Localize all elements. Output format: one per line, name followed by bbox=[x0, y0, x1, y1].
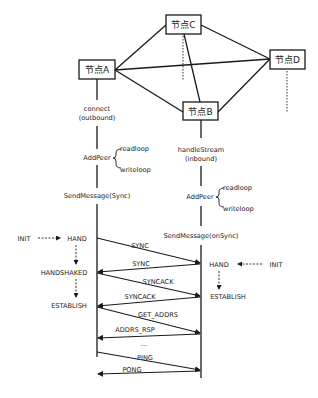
connect-label: connect bbox=[84, 105, 111, 113]
msg-label-addrs-rsp: ADDRS_RSP bbox=[115, 326, 154, 334]
node-c-label: 节点C bbox=[171, 20, 195, 30]
msg-arrow-pong bbox=[98, 371, 200, 374]
right-readloop-label: readloop bbox=[223, 184, 252, 192]
right-state-establish: ESTABLISH bbox=[210, 293, 246, 301]
inbound-label: (inbound) bbox=[185, 155, 217, 163]
left-state-handshaked: HANDSHAKED bbox=[41, 269, 88, 277]
msg-label-sync-out: SYNC bbox=[131, 242, 149, 250]
msg-label-get-addrs: GET_ADDRS bbox=[138, 311, 178, 319]
node-d: 节点D bbox=[270, 50, 305, 69]
left-writeloop-label: writeloop bbox=[120, 166, 151, 174]
left-sendmessage-label: SendMessage(Sync) bbox=[64, 192, 131, 200]
msg-label-ellipsis: ... bbox=[141, 340, 147, 348]
right-init-label: INIT bbox=[270, 261, 284, 269]
msg-label-pong: PONG bbox=[122, 366, 141, 374]
mesh-edges bbox=[115, 25, 270, 112]
node-d-label: 节点D bbox=[275, 55, 300, 65]
right-sendmessage-label: SendMessage(onSync) bbox=[164, 232, 239, 240]
edge-d-b bbox=[218, 59, 270, 112]
left-init-label: INIT bbox=[18, 235, 32, 243]
outbound-label: (outbound) bbox=[79, 114, 116, 122]
edge-c-d bbox=[201, 25, 270, 59]
left-addpeer-label: AddPeer bbox=[83, 154, 111, 162]
right-writeloop-label: writeloop bbox=[223, 205, 254, 213]
node-a: 节点A bbox=[79, 60, 115, 79]
left-state-establish: ESTABLISH bbox=[51, 302, 87, 310]
msg-label-ping: PING bbox=[137, 354, 153, 362]
msg-label-syncack-back: SYNCACK bbox=[124, 293, 156, 301]
node-a-label: 节点A bbox=[85, 65, 110, 75]
node-c: 节点C bbox=[166, 15, 201, 34]
edge-a-b bbox=[115, 70, 183, 112]
handlestream-label: handleStream bbox=[178, 146, 224, 154]
msg-label-syncack-out: SYNCACK bbox=[142, 278, 174, 286]
node-b-label: 节点B bbox=[188, 107, 212, 117]
msg-arrow-addrs-rsp bbox=[98, 334, 200, 338]
left-state-hand: HAND bbox=[67, 235, 86, 243]
edge-a-c bbox=[115, 25, 166, 70]
right-addpeer-label: AddPeer bbox=[186, 193, 214, 201]
node-b: 节点B bbox=[183, 102, 218, 120]
edge-c-b bbox=[184, 34, 200, 102]
left-readloop-label: readloop bbox=[120, 145, 149, 153]
right-state-hand: HAND bbox=[209, 261, 228, 269]
msg-label-sync-back: SYNC bbox=[132, 260, 150, 268]
p2p-handshake-diagram: 节点C 节点D 节点A 节点B connect (outbound) AddPe… bbox=[0, 0, 318, 398]
